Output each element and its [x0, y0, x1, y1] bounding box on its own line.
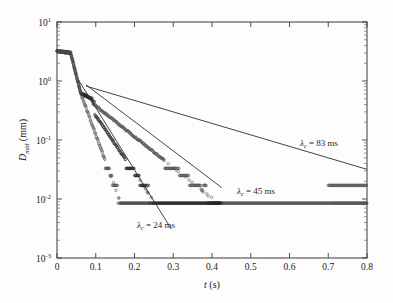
x-axis-label: t (s) [204, 279, 220, 291]
x-tick-label-5: 0.5 [245, 262, 257, 272]
x-tick-label-4: 0.4 [206, 262, 218, 272]
x-tick-label-1: 0.1 [90, 262, 102, 272]
y-axis-label: Dmid (mm) [17, 119, 30, 162]
x-tick-label-0: 0 [55, 262, 60, 272]
scatter-plot: 00.10.20.30.40.50.60.70.810110010-110-21… [0, 0, 393, 303]
x-tick-label-6: 0.6 [284, 262, 296, 272]
x-tick-label-7: 0.7 [322, 262, 334, 272]
x-tick-label-3: 0.3 [167, 262, 179, 272]
x-tick-label-2: 0.2 [129, 262, 141, 272]
x-tick-label-8: 0.8 [361, 262, 373, 272]
figure-container: 00.10.20.30.40.50.60.70.810110010-110-21… [0, 0, 393, 303]
